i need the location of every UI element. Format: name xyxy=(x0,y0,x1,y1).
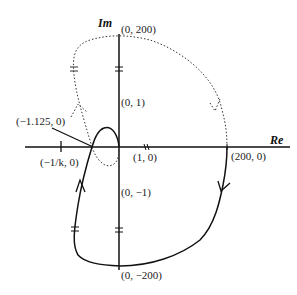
nyquist-diagram: Im Re (0, 200) (0, 1) (−1.125, 0) (−1/k,… xyxy=(0,0,297,295)
label-right: (200, 0) xyxy=(231,150,266,163)
label-one-zero: (1, 0) xyxy=(133,151,157,164)
dotted-arrow-icon xyxy=(71,104,87,117)
dotted-branch-inner xyxy=(92,147,119,166)
dotted-branch-outer xyxy=(73,36,227,147)
imag-axis-label: Im xyxy=(97,16,112,30)
label-pos-imag: (0, 1) xyxy=(121,96,145,109)
dotted-arrow-icon xyxy=(210,99,220,111)
dotted-branch-break xyxy=(70,67,78,71)
label-critical: (−1.125, 0) xyxy=(16,115,66,128)
label-minus-one-over-k: (−1/k, 0) xyxy=(40,156,79,169)
label-top: (0, 200) xyxy=(121,23,156,36)
label-bottom: (0, −200) xyxy=(121,269,162,282)
critical-point-pointer xyxy=(52,128,91,146)
label-neg-imag: (0, −1) xyxy=(121,186,151,199)
real-axis-label: Re xyxy=(269,133,284,147)
